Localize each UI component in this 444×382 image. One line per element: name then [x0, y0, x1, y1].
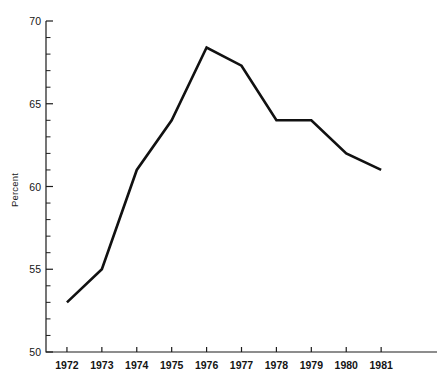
x-tick-label: 1980 — [335, 359, 359, 371]
x-tick-label: 1976 — [195, 359, 219, 371]
y-tick-label: 65 — [29, 98, 41, 110]
y-tick-label: 60 — [29, 181, 41, 193]
x-tick-label: 1979 — [300, 359, 324, 371]
y-tick-label: 50 — [29, 346, 41, 358]
y-axis-title: Percent — [9, 173, 20, 207]
chart-plot-area: 5055606570 19721973197419751976197719781… — [0, 0, 444, 382]
x-tick-label: 1978 — [265, 359, 289, 371]
x-tick-label: 1981 — [369, 359, 393, 371]
x-tick-label: 1975 — [160, 359, 184, 371]
line-chart-figure: 5055606570 19721973197419751976197719781… — [0, 0, 444, 382]
x-tick-label: 1973 — [90, 359, 114, 371]
x-tick-label: 1972 — [55, 359, 79, 371]
x-tick-label: 1974 — [125, 359, 149, 371]
chart-background — [0, 0, 444, 382]
y-tick-label: 55 — [29, 263, 41, 275]
x-tick-label: 1977 — [230, 359, 254, 371]
y-tick-label: 70 — [29, 15, 41, 27]
